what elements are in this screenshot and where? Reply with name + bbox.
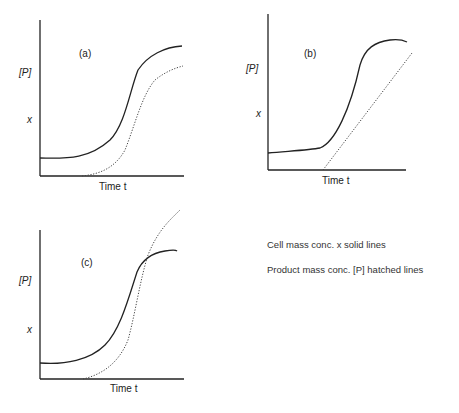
panel-b-xlabel: Time t — [322, 175, 349, 186]
panel-b-ylabel-p: [P] — [246, 63, 258, 74]
legend-dotted: Product mass conc. [P] hatched lines — [267, 264, 423, 275]
panel-b: (b) [P] x Time t — [230, 0, 459, 200]
panel-a-label: (a) — [79, 48, 91, 59]
panel-b-label: (b) — [304, 48, 316, 59]
panel-c-label: (c) — [81, 257, 93, 268]
panel-c-ylabel-p: [P] — [19, 275, 31, 286]
panel-b-ylabel-x: x — [256, 108, 261, 119]
panel-a: (a) [P] x Time t — [0, 0, 230, 200]
panel-c: (c) [P] x Time t — [0, 200, 230, 413]
chart-a-plot — [0, 0, 230, 200]
chart-b-plot — [230, 0, 459, 200]
legend-solid: Cell mass conc. x solid lines — [267, 239, 386, 250]
panel-a-ylabel-x: x — [27, 114, 32, 125]
chart-c-plot — [0, 200, 230, 413]
panel-a-xlabel: Time t — [99, 181, 126, 192]
panel-c-xlabel: Time t — [110, 383, 137, 394]
panel-a-ylabel-p: [P] — [19, 67, 31, 78]
panel-c-ylabel-x: x — [27, 324, 32, 335]
